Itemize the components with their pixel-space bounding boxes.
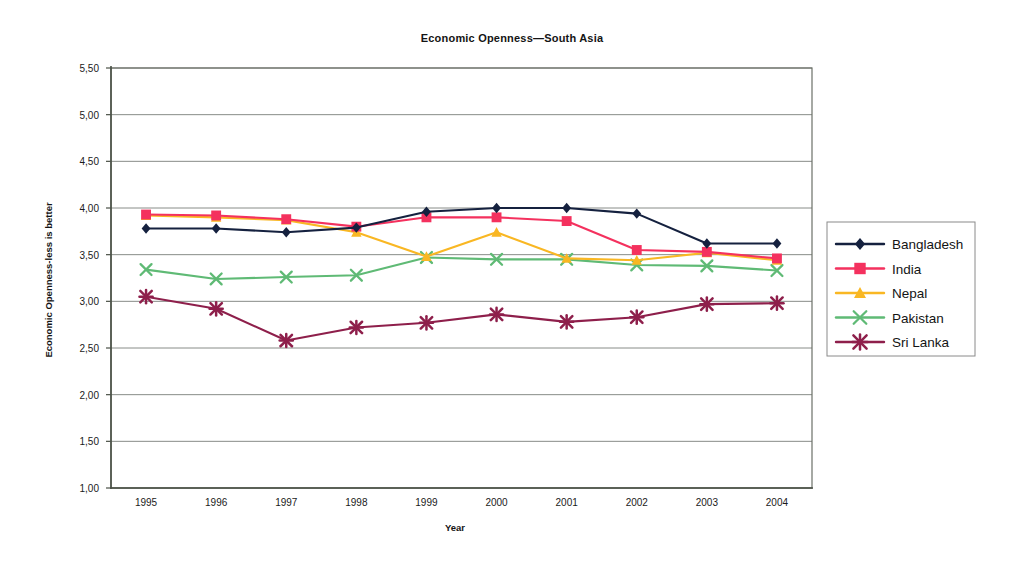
data-point (139, 290, 152, 303)
data-point (770, 297, 783, 310)
legend-swatch-marker (852, 334, 867, 349)
x-axis-tick-label: 1996 (205, 497, 228, 508)
y-axis-tick-label: 2,00 (80, 390, 100, 401)
legend-label: Pakistan (892, 311, 944, 326)
x-axis-tick-label: 1997 (275, 497, 298, 508)
chart-legend: BangladeshIndiaNepalPakistanSri Lanka (827, 222, 975, 356)
legend-label: Bangladesh (892, 237, 963, 252)
x-axis-tick-label: 1999 (415, 497, 438, 508)
y-axis-tick-label: 5,00 (80, 110, 100, 121)
legend-label: Nepal (892, 286, 927, 301)
x-axis-tick-label: 2004 (766, 497, 789, 508)
legend-label: Sri Lanka (892, 335, 950, 350)
legend-swatch-marker (854, 263, 865, 274)
x-axis-tick-label: 2002 (626, 497, 649, 508)
data-point (490, 308, 503, 321)
y-axis-tick-label: 3,50 (80, 250, 100, 261)
data-point (420, 316, 433, 329)
chart-figure: Economic Openness—South Asia Economic Op… (0, 0, 1030, 573)
y-axis-tick-label: 2,50 (80, 343, 100, 354)
x-axis-tick-label: 2001 (556, 497, 579, 508)
data-point (700, 298, 713, 311)
data-point (492, 212, 502, 222)
data-point (560, 315, 573, 328)
data-point (210, 302, 223, 315)
y-axis-title: Economic Openness-less is better (43, 202, 54, 358)
x-axis-tick-label: 1995 (135, 497, 158, 508)
data-point (280, 334, 293, 347)
data-point (772, 253, 782, 263)
x-axis-tick-label: 1998 (345, 497, 368, 508)
data-point (630, 311, 643, 324)
x-axis-title: Year (445, 522, 465, 533)
x-axis-tick-label: 2003 (696, 497, 719, 508)
x-axis-tick-label: 2000 (485, 497, 508, 508)
y-axis-tick-label: 1,50 (80, 436, 100, 447)
data-point (350, 321, 363, 334)
data-point (281, 214, 291, 224)
y-axis-tick-label: 1,00 (80, 483, 100, 494)
y-axis-tick-label: 4,00 (80, 203, 100, 214)
chart-title: Economic Openness—South Asia (421, 32, 604, 44)
y-axis-tick-label: 5,50 (80, 63, 100, 74)
data-point (632, 245, 642, 255)
data-point (211, 211, 221, 221)
y-axis-tick-label: 3,00 (80, 296, 100, 307)
y-axis-tick-label: 4,50 (80, 156, 100, 167)
data-point (562, 216, 572, 226)
legend-item-sri-lanka[interactable]: Sri Lanka (836, 334, 950, 350)
legend-label: India (892, 262, 922, 277)
data-point (141, 210, 151, 220)
